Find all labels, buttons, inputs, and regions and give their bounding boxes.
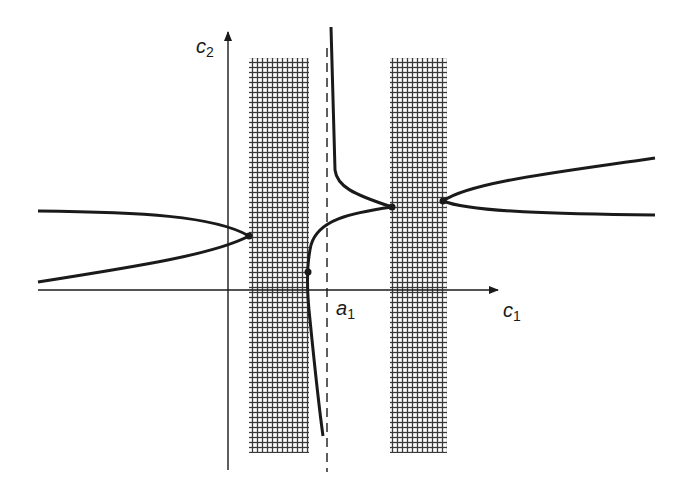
- point-left-vertex: [246, 233, 253, 240]
- shaded-band-left: [249, 58, 309, 453]
- shaded-band-right: [390, 58, 447, 453]
- curve-right-branch: [443, 158, 655, 215]
- point-middle-peak: [389, 204, 396, 211]
- curve-left-branch: [38, 211, 249, 282]
- x-axis-label-base: c: [503, 299, 513, 321]
- asymptote-label-sub: 1: [347, 306, 355, 322]
- point-right-vertex: [440, 198, 447, 205]
- curve-middle-upper: [331, 27, 392, 207]
- point-middle-lower: [305, 269, 312, 276]
- y-axis-label-sub: 2: [206, 44, 214, 60]
- x-axis-label-sub: 1: [513, 308, 521, 324]
- x-axis-label: c1: [503, 300, 521, 323]
- y-axis-label: c2: [196, 36, 214, 59]
- diagram-canvas: [0, 0, 687, 486]
- asymptote-label: a1: [336, 298, 355, 321]
- asymptote-label-base: a: [336, 297, 347, 319]
- y-axis-label-base: c: [196, 35, 206, 57]
